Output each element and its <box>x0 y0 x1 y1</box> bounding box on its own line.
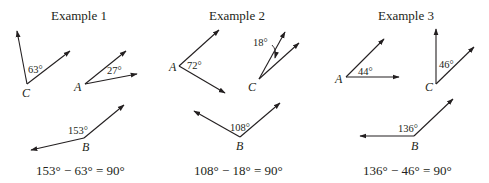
ex2-vertex-b: B <box>236 140 243 152</box>
ex2-vertex-c: C <box>248 81 256 93</box>
ex3-vertex-b: B <box>411 140 418 152</box>
ex2-angle-b-measure: 108° <box>230 123 250 134</box>
ex3-vertex-a: A <box>335 73 342 85</box>
ex3-angle-b-measure: 136° <box>398 124 418 135</box>
example-1-equation: 153° − 63° = 90° <box>36 164 125 177</box>
ex3-angle-c <box>436 29 474 84</box>
ex1-angle-c-measure: 63° <box>28 65 43 76</box>
example-1-title: Example 1 <box>51 9 107 22</box>
example-3-title: Example 3 <box>378 9 434 22</box>
example-2-equation: 108° − 18° = 90° <box>194 164 283 177</box>
ex2-angle-a <box>179 30 225 93</box>
ex1-angle-a-measure: 27° <box>107 66 122 77</box>
ex2-vertex-a: A <box>169 61 176 73</box>
ex1-vertex-b: B <box>82 141 89 153</box>
ex3-angle-a-measure: 44° <box>358 67 373 78</box>
example-3-equation: 136° − 46° = 90° <box>363 164 452 177</box>
ex1-angle-c <box>17 31 70 84</box>
ex2-angle-a-measure: 72° <box>187 61 202 72</box>
ex3-vertex-c: C <box>425 81 433 93</box>
ex1-angle-b-measure: 153° <box>68 126 88 137</box>
ex1-vertex-c: C <box>22 87 30 99</box>
ex3-angle-c-measure: 46° <box>439 60 454 71</box>
ex2-angle-c-measure: 18° <box>253 38 268 49</box>
ex1-vertex-a: A <box>74 81 81 93</box>
example-2-title: Example 2 <box>209 9 265 22</box>
